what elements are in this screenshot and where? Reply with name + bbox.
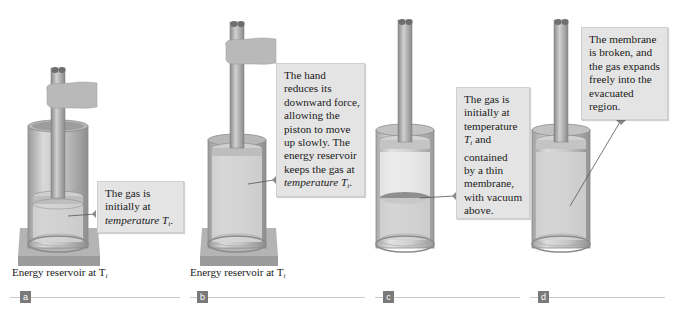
divider-b [190,297,365,298]
callout-line: keeps the gas at [284,163,358,176]
panel-d: The membrane is broken, and the gas expa… [520,0,674,315]
callout-d: The membrane is broken, and the gas expa… [581,27,668,120]
callout-line: by a thin [464,164,523,177]
callout-line: contained [464,151,523,164]
callout-c: The gas is initially at temperature Ti a… [456,87,530,219]
callout-line: piston to move [284,123,358,136]
panel-label-d: d [538,291,549,303]
callout-line: Ti and [464,133,523,150]
callout-line: region. [589,100,661,113]
panel-c: The gas is initially at temperature Ti a… [370,0,520,315]
panel-label-a: a [20,291,31,303]
caption-text: Energy reservoir at T [12,266,105,278]
callout-line: is broken, and [589,46,661,59]
callout-line: initially at [464,106,523,119]
callout-line: The gas is [105,187,177,200]
suffix: . [170,214,173,226]
panel-label-b: b [197,291,208,303]
callout-line: allowing the [284,109,358,122]
subscript: i [283,272,285,280]
panel-a: The gas is initially at temperature Ti. … [0,0,190,315]
callout-b: The hand reduces its downward force, all… [276,63,365,197]
callout-line: temperature [464,120,523,133]
caption-b: Energy reservoir at Ti [190,266,285,280]
divider-a [10,297,180,298]
callout-line: The gas is [464,93,523,106]
callout-text: temperature T [105,214,168,226]
callout-line: freely into the [589,73,661,86]
callout-line: The membrane [589,33,661,46]
divider-d [530,297,665,298]
subscript: i [105,272,107,280]
piston-cylinder-illustration [0,0,190,290]
callout-line: The hand [284,69,358,82]
callout-line: evacuated [589,87,661,100]
callout-line: temperature Ti. [284,176,358,193]
callout-line: up slowly. The [284,136,358,149]
panel-label-c: c [383,291,394,303]
callout-text: temperature T [284,176,347,188]
callout-line: temperature Ti. [105,214,177,231]
callout-a: The gas is initially at temperature Ti. [97,181,184,233]
suffix: and [472,133,491,145]
suffix: . [349,176,352,188]
callout-line: downward force, [284,96,358,109]
caption-text: Energy reservoir at T [190,266,283,278]
panel-b: The hand reduces its downward force, all… [190,0,370,315]
hand-icon [47,82,98,108]
callout-line: initially at [105,200,177,213]
hand-icon [226,38,277,64]
callout-line: the gas expands [589,60,661,73]
divider-c [375,297,520,298]
callout-line: reduces its [284,82,358,95]
callout-line: above. [464,204,523,217]
caption-a: Energy reservoir at Ti [12,266,107,280]
callout-line: with vacuum [464,191,523,204]
callout-line: membrane, [464,177,523,190]
callout-line: energy reservoir [284,149,358,162]
